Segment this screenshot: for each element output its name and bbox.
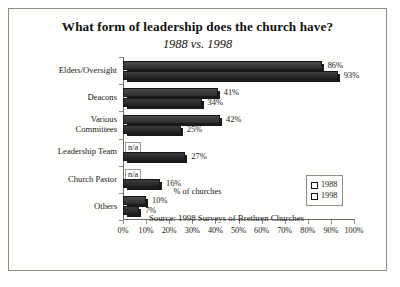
bar-shadow-bottom xyxy=(127,106,204,109)
y-tick xyxy=(119,57,123,58)
x-tick-label: 30% xyxy=(185,226,200,235)
bar-1988 xyxy=(123,61,322,70)
category-label: Church Pastor xyxy=(21,175,117,185)
chart-subtitle: 1988 vs. 1998 xyxy=(9,37,386,52)
bar-shadow-bottom xyxy=(127,160,187,163)
x-axis-title: % of churches xyxy=(9,187,386,196)
category-label: Others xyxy=(21,202,117,212)
chart-source: Source: 1998 Surveys of Brethren Churche… xyxy=(9,213,386,223)
x-tick-label: 50% xyxy=(231,226,246,235)
category-label: VariousCommittees xyxy=(21,115,117,134)
category-label: Leadership Team xyxy=(21,147,117,157)
bar-value-label: 93% xyxy=(344,71,359,80)
chart-frame: What form of leadership does the church … xyxy=(8,8,387,271)
bar-value-label: 10% xyxy=(152,196,167,205)
bar-1998 xyxy=(123,98,202,107)
bar-1998 xyxy=(123,152,185,161)
bar-value-label: 86% xyxy=(328,61,343,70)
bar-value-label: 34% xyxy=(208,98,223,107)
bar-value-label: 25% xyxy=(187,125,202,134)
bar-1998 xyxy=(123,71,338,80)
y-tick xyxy=(119,84,123,85)
bar-1988 xyxy=(123,115,220,124)
bar-1988 xyxy=(123,88,218,97)
x-tick-label: 60% xyxy=(254,226,269,235)
x-tick-label: 90% xyxy=(323,226,338,235)
bar-1998 xyxy=(123,125,181,134)
x-tick-label: 80% xyxy=(300,226,315,235)
x-tick-label: 100% xyxy=(344,226,363,235)
bar-value-label: 41% xyxy=(224,88,239,97)
y-tick xyxy=(119,166,123,167)
chart-title: What form of leadership does the church … xyxy=(9,19,386,35)
bar-value-label: 42% xyxy=(226,115,241,124)
y-tick xyxy=(119,111,123,112)
category-label: Elders/Oversight xyxy=(21,66,117,76)
bar-shadow-bottom xyxy=(127,133,183,136)
x-tick-label: 40% xyxy=(208,226,223,235)
x-tick-label: 10% xyxy=(139,226,154,235)
x-tick-label: 0% xyxy=(118,226,129,235)
x-tick-label: 20% xyxy=(162,226,177,235)
category-label: Deacons xyxy=(21,93,117,103)
bar-1988 xyxy=(123,196,146,205)
x-tick-label: 70% xyxy=(277,226,292,235)
bar-shadow-bottom xyxy=(127,79,340,82)
y-tick xyxy=(119,139,123,140)
bar-value-label: 27% xyxy=(191,152,206,161)
